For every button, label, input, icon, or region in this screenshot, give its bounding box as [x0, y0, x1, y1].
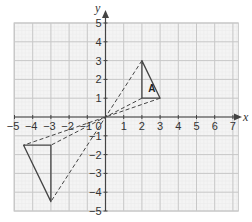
y-tick-label: −2: [89, 149, 102, 161]
y-tick-label: 1: [95, 92, 101, 104]
y-tick-label: −5: [89, 205, 102, 217]
y-axis-label: y: [94, 1, 101, 15]
x-tick-label: 2: [139, 120, 145, 132]
coordinate-grid-diagram: −5−4−3−2−1123456754321−1−2−3−4−50 x y A: [0, 0, 252, 222]
triangle-a-label: A: [148, 83, 155, 94]
origin-label: 0: [95, 120, 101, 132]
x-tick-label: 1: [121, 120, 127, 132]
y-tick-label: −4: [89, 186, 102, 198]
y-tick-label: 4: [95, 36, 101, 48]
x-tick-label: −5: [7, 120, 20, 132]
y-axis-arrow-icon: [102, 10, 109, 18]
y-tick-label: 3: [95, 55, 101, 67]
x-tick-label: 6: [212, 120, 218, 132]
y-tick-label: 5: [95, 17, 101, 29]
x-tick-label: 5: [193, 120, 199, 132]
y-tick-label: 2: [95, 73, 101, 85]
x-tick-label: 7: [230, 120, 236, 132]
x-axis-label: x: [242, 110, 249, 124]
x-tick-label: 4: [175, 120, 181, 132]
x-tick-label: −3: [43, 120, 56, 132]
y-tick-label: −3: [89, 167, 102, 179]
x-tick-label: −2: [61, 120, 74, 132]
x-tick-label: 3: [157, 120, 163, 132]
x-tick-label: −4: [25, 120, 38, 132]
